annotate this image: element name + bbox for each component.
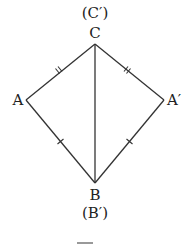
label-b-prime: (B′)	[82, 204, 108, 222]
label-a: A	[12, 91, 24, 109]
edge-ca-prime	[95, 44, 164, 100]
label-c: C	[89, 24, 100, 42]
kite-diagram: (C′) C A A′ B (B′)	[0, 0, 187, 245]
label-b: B	[89, 186, 100, 204]
edge-ca	[26, 44, 95, 100]
double-tick-ca	[56, 67, 63, 74]
label-a-prime: A′	[166, 91, 182, 109]
label-c-prime: (C′)	[82, 4, 109, 22]
